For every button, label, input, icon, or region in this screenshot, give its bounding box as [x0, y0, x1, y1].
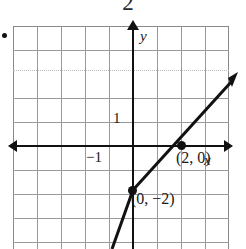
grid-line-horizontal [13, 98, 229, 99]
y-axis-arrow-up-icon [127, 20, 139, 30]
graph-figure: 2 1 −1 (2, 0) (0, −2) x y [0, 0, 246, 249]
grid-line-vertical [157, 26, 158, 249]
x-axis-arrow-right-icon [224, 140, 233, 152]
grid-line-horizontal [13, 170, 229, 171]
y-axis-label: y [140, 28, 147, 45]
grid-line-horizontal-dotted [13, 70, 229, 71]
grid-line-horizontal [13, 194, 229, 195]
y-axis [132, 26, 134, 249]
grid-line-vertical [228, 26, 229, 249]
grid-line-vertical [13, 26, 14, 249]
grid-line-vertical [37, 26, 38, 249]
coordinate-grid [13, 26, 229, 249]
x-axis-label: x [204, 152, 211, 169]
x-axis-tick-label-neg1: −1 [86, 149, 102, 166]
x-axis-arrow-left-icon [8, 140, 17, 152]
grid-line-horizontal [13, 218, 229, 219]
grid-line-horizontal [13, 122, 229, 123]
plot-line-arrow-icon [228, 72, 238, 87]
grid-line-vertical [85, 26, 86, 249]
grid-line-vertical [205, 26, 206, 249]
grid-line-horizontal [13, 26, 229, 27]
grid-line-vertical [181, 26, 182, 249]
grid-line-horizontal [13, 50, 229, 51]
y-axis-tick-label-1: 1 [113, 110, 121, 127]
partial-numeral-top: 2 [108, 0, 148, 16]
grid-line-horizontal [13, 242, 229, 243]
point-label-0-neg2: (0, −2) [131, 190, 175, 208]
x-axis [13, 145, 229, 147]
grid-line-vertical [109, 26, 110, 249]
grid-line-vertical [61, 26, 62, 249]
bullet-marker [2, 33, 7, 38]
